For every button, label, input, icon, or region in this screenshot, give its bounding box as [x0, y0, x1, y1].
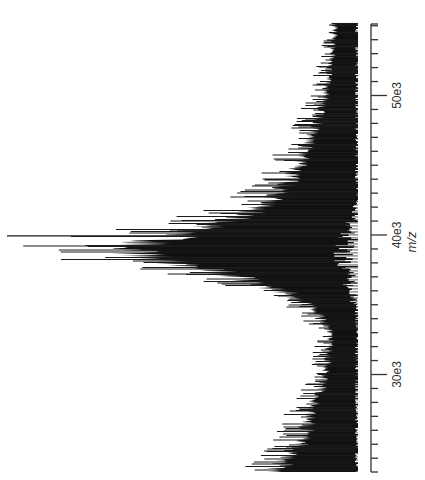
baseline-noise — [357, 458, 359, 459]
baseline-noise — [348, 244, 359, 245]
baseline-noise — [355, 461, 359, 462]
baseline-noise — [356, 208, 359, 209]
baseline-noise — [357, 175, 359, 176]
baseline-noise — [356, 442, 359, 443]
baseline-noise — [356, 55, 359, 56]
spectrum-sticks — [7, 23, 359, 473]
baseline-noise — [355, 400, 359, 401]
axis-title-mz: m/z — [404, 231, 419, 252]
mz-axis: 30e340e350e3 m/z — [371, 24, 419, 472]
baseline-noise — [334, 256, 359, 257]
baseline-noise — [356, 464, 359, 465]
baseline-noise — [353, 206, 359, 207]
baseline-noise — [356, 26, 359, 27]
baseline-noise — [357, 52, 359, 53]
baseline-noise — [356, 140, 359, 141]
baseline-noise — [356, 164, 359, 165]
baseline-noise — [355, 403, 359, 404]
baseline-noise — [349, 290, 359, 291]
baseline-noise — [353, 259, 359, 260]
baseline-noise — [351, 262, 359, 263]
baseline-noise — [356, 406, 359, 407]
baseline-noise — [356, 460, 359, 461]
baseline-noise — [350, 293, 359, 294]
baseline-noise — [357, 332, 359, 333]
tick-label: 50e3 — [390, 82, 404, 109]
baseline-noise — [355, 454, 359, 455]
baseline-noise — [357, 112, 359, 113]
baseline-noise — [356, 308, 359, 309]
baseline-noise — [356, 86, 359, 87]
baseline-noise — [356, 455, 359, 456]
baseline-noise — [356, 181, 359, 182]
baseline-noise — [356, 415, 359, 416]
baseline-noise — [348, 241, 359, 242]
baseline-noise — [355, 215, 359, 216]
baseline-noise — [356, 391, 359, 392]
baseline-noise — [357, 440, 359, 441]
baseline-noise — [349, 271, 359, 272]
baseline-noise — [357, 430, 359, 431]
baseline-noise — [355, 209, 359, 210]
baseline-noise — [357, 136, 359, 137]
baseline-noise — [356, 202, 359, 203]
baseline-noise — [349, 229, 359, 230]
baseline-noise — [356, 29, 359, 30]
baseline-noise — [355, 388, 359, 389]
baseline-noise — [352, 289, 359, 290]
baseline-noise — [357, 203, 359, 204]
baseline-noise — [350, 226, 359, 227]
baseline-noise — [350, 251, 359, 252]
baseline-noise — [349, 292, 359, 293]
baseline-noise — [355, 92, 359, 93]
baseline-noise — [352, 217, 359, 218]
baseline-noise — [356, 134, 359, 135]
tick-label: 40e3 — [390, 221, 404, 248]
baseline-noise — [348, 287, 359, 288]
minor-ticks — [371, 24, 378, 472]
baseline-noise — [351, 269, 359, 270]
baseline-noise — [357, 64, 359, 65]
baseline-noise — [339, 248, 359, 249]
baseline-noise — [355, 433, 359, 434]
baseline-noise — [334, 253, 359, 254]
baseline-noise — [355, 275, 359, 276]
baseline-noise — [356, 77, 359, 78]
baseline-noise — [351, 277, 359, 278]
baseline-noise — [355, 94, 359, 95]
baseline-noise — [356, 409, 359, 410]
baseline-noise — [337, 265, 359, 266]
baseline-noise — [355, 428, 359, 429]
baseline-noise — [355, 311, 359, 312]
baseline-noise — [346, 257, 359, 258]
baseline-noise — [356, 437, 359, 438]
baseline-noise — [339, 263, 359, 264]
baseline-noise — [354, 247, 359, 248]
baseline-noise — [357, 439, 359, 440]
tick-label: 30e3 — [390, 361, 404, 388]
baseline-noise — [353, 254, 359, 255]
baseline-noise — [351, 238, 359, 239]
baseline-noise — [356, 436, 359, 437]
baseline-noise — [357, 331, 359, 332]
baseline-noise — [349, 280, 359, 281]
baseline-noise — [357, 422, 359, 423]
baseline-noise — [356, 167, 359, 168]
mass-spectrum-chart: 30e340e350e3 m/z — [0, 0, 425, 480]
baseline-noise — [357, 338, 359, 339]
baseline-noise — [357, 418, 359, 419]
baseline-noise — [354, 242, 359, 243]
baseline-noise — [349, 235, 359, 236]
baseline-noise — [356, 445, 359, 446]
baseline-noise — [356, 472, 359, 473]
baseline-noise — [356, 401, 359, 402]
baseline-noise — [355, 49, 359, 50]
baseline-noise — [355, 457, 359, 458]
baseline-noise — [357, 188, 359, 189]
baseline-noise — [355, 281, 359, 282]
baseline-noise — [352, 227, 359, 228]
baseline-noise — [355, 368, 359, 369]
tick-labels: 30e340e350e3 — [390, 82, 404, 388]
baseline-noise — [356, 146, 359, 147]
baseline-noise — [355, 31, 359, 32]
